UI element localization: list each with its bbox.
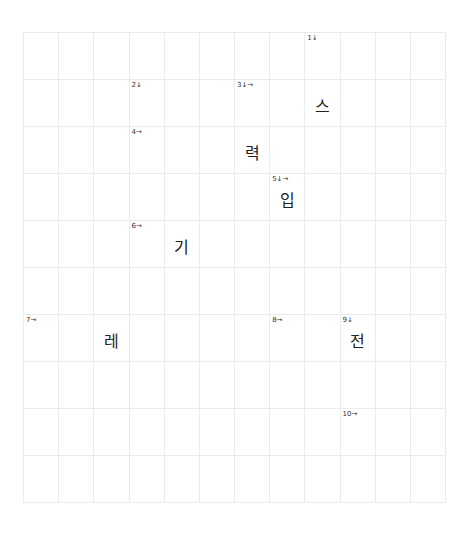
grid-cell[interactable]: 9↓전 bbox=[341, 315, 376, 362]
grid-cell[interactable] bbox=[165, 409, 200, 456]
grid-cell[interactable] bbox=[24, 127, 59, 174]
grid-cell[interactable] bbox=[341, 174, 376, 221]
grid-cell[interactable] bbox=[376, 221, 411, 268]
grid-cell[interactable] bbox=[200, 127, 235, 174]
grid-cell[interactable] bbox=[270, 80, 305, 127]
grid-cell[interactable]: 4→ bbox=[130, 127, 165, 174]
grid-cell[interactable] bbox=[305, 409, 340, 456]
grid-cell[interactable] bbox=[94, 362, 129, 409]
grid-cell[interactable] bbox=[270, 409, 305, 456]
grid-cell[interactable] bbox=[165, 33, 200, 80]
grid-cell[interactable] bbox=[270, 127, 305, 174]
grid-cell[interactable] bbox=[59, 409, 94, 456]
grid-cell[interactable] bbox=[376, 362, 411, 409]
grid-cell[interactable] bbox=[94, 80, 129, 127]
grid-cell[interactable] bbox=[411, 33, 446, 80]
grid-cell[interactable]: 스 bbox=[305, 80, 340, 127]
grid-cell[interactable] bbox=[376, 268, 411, 315]
grid-cell[interactable]: 8→ bbox=[270, 315, 305, 362]
grid-cell[interactable] bbox=[235, 456, 270, 503]
grid-cell[interactable] bbox=[305, 268, 340, 315]
grid-cell[interactable] bbox=[130, 268, 165, 315]
grid-cell[interactable]: 력 bbox=[235, 127, 270, 174]
grid-cell[interactable] bbox=[270, 33, 305, 80]
grid-cell[interactable] bbox=[305, 362, 340, 409]
grid-cell[interactable] bbox=[235, 268, 270, 315]
grid-cell[interactable]: 레 bbox=[94, 315, 129, 362]
grid-cell[interactable] bbox=[200, 315, 235, 362]
grid-cell[interactable] bbox=[59, 80, 94, 127]
grid-cell[interactable] bbox=[200, 268, 235, 315]
grid-cell[interactable] bbox=[235, 221, 270, 268]
grid-cell[interactable] bbox=[235, 362, 270, 409]
grid-cell[interactable] bbox=[341, 127, 376, 174]
grid-cell[interactable] bbox=[59, 362, 94, 409]
grid-cell[interactable] bbox=[376, 33, 411, 80]
grid-cell[interactable] bbox=[305, 456, 340, 503]
grid-cell[interactable] bbox=[165, 127, 200, 174]
grid-cell[interactable] bbox=[24, 174, 59, 221]
grid-cell[interactable] bbox=[200, 362, 235, 409]
grid-cell[interactable] bbox=[376, 315, 411, 362]
grid-cell[interactable] bbox=[165, 456, 200, 503]
grid-cell[interactable] bbox=[270, 362, 305, 409]
grid-cell[interactable] bbox=[376, 80, 411, 127]
grid-cell[interactable] bbox=[411, 268, 446, 315]
grid-cell[interactable] bbox=[411, 80, 446, 127]
grid-cell[interactable] bbox=[376, 456, 411, 503]
grid-cell[interactable] bbox=[24, 409, 59, 456]
grid-cell[interactable] bbox=[200, 80, 235, 127]
grid-cell[interactable] bbox=[94, 456, 129, 503]
grid-cell[interactable] bbox=[305, 174, 340, 221]
grid-cell[interactable] bbox=[24, 456, 59, 503]
grid-cell[interactable] bbox=[94, 127, 129, 174]
grid-cell[interactable]: 1↓ bbox=[305, 33, 340, 80]
grid-cell[interactable] bbox=[165, 80, 200, 127]
grid-cell[interactable] bbox=[341, 362, 376, 409]
grid-cell[interactable]: 5↓→입 bbox=[270, 174, 305, 221]
grid-cell[interactable] bbox=[94, 33, 129, 80]
grid-cell[interactable] bbox=[235, 33, 270, 80]
grid-cell[interactable] bbox=[130, 409, 165, 456]
grid-cell[interactable] bbox=[411, 315, 446, 362]
grid-cell[interactable] bbox=[411, 127, 446, 174]
grid-cell[interactable] bbox=[94, 268, 129, 315]
grid-cell[interactable] bbox=[59, 127, 94, 174]
grid-cell[interactable] bbox=[24, 221, 59, 268]
grid-cell[interactable] bbox=[165, 362, 200, 409]
grid-cell[interactable] bbox=[341, 80, 376, 127]
grid-cell[interactable] bbox=[341, 268, 376, 315]
grid-cell[interactable] bbox=[165, 174, 200, 221]
grid-cell[interactable] bbox=[411, 409, 446, 456]
grid-cell[interactable] bbox=[305, 221, 340, 268]
grid-cell[interactable] bbox=[411, 456, 446, 503]
grid-cell[interactable] bbox=[59, 315, 94, 362]
grid-cell[interactable] bbox=[24, 33, 59, 80]
grid-cell[interactable] bbox=[341, 221, 376, 268]
grid-cell[interactable]: 6→ bbox=[130, 221, 165, 268]
grid-cell[interactable] bbox=[235, 409, 270, 456]
grid-cell[interactable] bbox=[59, 33, 94, 80]
grid-cell[interactable] bbox=[341, 456, 376, 503]
grid-cell[interactable] bbox=[165, 268, 200, 315]
grid-cell[interactable] bbox=[130, 315, 165, 362]
grid-cell[interactable] bbox=[411, 174, 446, 221]
grid-cell[interactable]: 2↓ bbox=[130, 80, 165, 127]
grid-cell[interactable] bbox=[235, 174, 270, 221]
grid-cell[interactable] bbox=[130, 174, 165, 221]
grid-cell[interactable] bbox=[59, 221, 94, 268]
grid-cell[interactable] bbox=[24, 268, 59, 315]
grid-cell[interactable] bbox=[270, 268, 305, 315]
grid-cell[interactable] bbox=[376, 409, 411, 456]
grid-cell[interactable] bbox=[24, 362, 59, 409]
grid-cell[interactable] bbox=[200, 221, 235, 268]
grid-cell[interactable] bbox=[165, 315, 200, 362]
grid-cell[interactable] bbox=[235, 315, 270, 362]
grid-cell[interactable] bbox=[376, 127, 411, 174]
grid-cell[interactable] bbox=[305, 127, 340, 174]
grid-cell[interactable] bbox=[200, 409, 235, 456]
grid-cell[interactable]: 기 bbox=[165, 221, 200, 268]
grid-cell[interactable]: 3↓→ bbox=[235, 80, 270, 127]
grid-cell[interactable] bbox=[59, 174, 94, 221]
grid-cell[interactable] bbox=[270, 456, 305, 503]
